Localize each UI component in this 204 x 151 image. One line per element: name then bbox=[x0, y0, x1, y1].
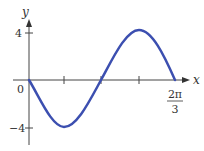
x-axis-label: x bbox=[193, 73, 200, 87]
y-axis-arrow-icon bbox=[26, 19, 32, 27]
y-axis-label: y bbox=[21, 5, 29, 19]
y-tick-label-neg4: −4 bbox=[9, 122, 25, 135]
x-end-label-denominator: 3 bbox=[172, 103, 179, 116]
chart: y x 0 4 −4 2π 3 bbox=[0, 0, 204, 151]
x-axis-arrow-icon bbox=[182, 77, 190, 83]
x-end-label-numerator: 2π bbox=[168, 88, 182, 101]
y-tick-label-4: 4 bbox=[15, 27, 22, 40]
curve-line bbox=[29, 30, 175, 127]
origin-label: 0 bbox=[17, 83, 24, 96]
